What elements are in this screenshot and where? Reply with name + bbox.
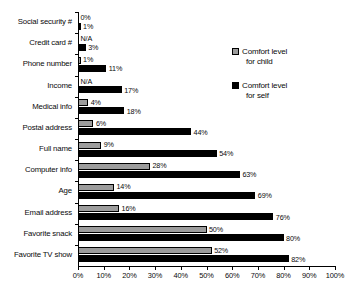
bar-self: [78, 23, 81, 30]
bar-self: [78, 192, 255, 199]
legend-swatch-child: [232, 48, 239, 55]
x-tick: [335, 266, 336, 270]
x-tick: [78, 266, 79, 270]
category-label: Age: [0, 186, 72, 196]
chart-row: Full name9%54%: [0, 139, 355, 160]
bar-value-label-self: 1%: [83, 23, 93, 31]
legend-label: Comfort levelfor child: [242, 47, 352, 67]
bar-value-label-child: 50%: [209, 226, 223, 234]
bar-value-label-child: 52%: [214, 247, 228, 255]
bar-self: [78, 171, 240, 178]
bar-value-label-child: 6%: [96, 120, 106, 128]
chart-row: Social security #0%1%: [0, 12, 355, 33]
x-tick: [155, 266, 156, 270]
legend-label: Comfort levelfor self: [242, 81, 352, 101]
bar-self: [78, 234, 284, 241]
bar-self: [78, 44, 86, 51]
bar-value-label-self: 76%: [276, 214, 290, 222]
bar-value-label-self: 82%: [291, 256, 305, 264]
bar-self: [78, 150, 217, 157]
x-tick: [104, 266, 105, 270]
bar-child: [78, 247, 212, 254]
bar-value-label-self: 11%: [109, 65, 122, 73]
chart-row: Age14%69%: [0, 181, 355, 202]
x-tick: [207, 266, 208, 270]
bar-value-label-child: 28%: [152, 162, 166, 170]
bar-value-label-child: N/A: [81, 35, 93, 43]
chart-row: Favorite TV show52%82%: [0, 245, 355, 266]
x-tick: [309, 266, 310, 270]
bar-child: [78, 205, 119, 212]
x-tick: [258, 266, 259, 270]
bar-self: [78, 86, 122, 93]
bar-child: [78, 226, 207, 233]
chart-row: Postal address6%44%: [0, 118, 355, 139]
category-label: Phone number: [0, 59, 72, 69]
bar-value-label-child: 16%: [122, 205, 136, 213]
category-label: Income: [0, 81, 72, 91]
chart-row: Favorite snack50%80%: [0, 224, 355, 245]
bar-value-label-self: 54%: [219, 150, 233, 158]
category-label: Favorite TV show: [0, 250, 72, 260]
bar-child: [78, 163, 150, 170]
legend-swatch-self: [232, 82, 239, 89]
x-tick-label: 100%: [320, 271, 350, 281]
bar-value-label-child: 14%: [116, 183, 130, 191]
bar-child: [78, 99, 88, 106]
category-label: Social security #: [0, 17, 72, 27]
chart-legend: Comfort levelfor childComfort levelfor s…: [232, 47, 352, 115]
bar-value-label-child: 9%: [104, 141, 114, 149]
bar-value-label-child: 0%: [81, 14, 91, 22]
legend-label-line2: for child: [246, 57, 352, 67]
bar-child: [78, 57, 81, 64]
bar-value-label-self: 63%: [242, 171, 256, 179]
legend-item: Comfort levelfor child: [232, 47, 352, 67]
legend-label-line2: for self: [246, 91, 352, 101]
x-tick: [232, 266, 233, 270]
bar-child: [78, 120, 93, 127]
bar-child: [78, 142, 101, 149]
legend-item: Comfort levelfor self: [232, 81, 352, 101]
bar-value-label-self: 17%: [124, 87, 138, 95]
bar-child: [78, 184, 114, 191]
category-label: Favorite snack: [0, 229, 72, 239]
bar-self: [78, 65, 106, 72]
bar-self: [78, 128, 191, 135]
bar-self: [78, 213, 273, 220]
bar-self: [78, 255, 289, 262]
bar-value-label-self: 18%: [127, 108, 141, 116]
chart-row: Email address16%76%: [0, 203, 355, 224]
category-label: Full name: [0, 144, 72, 154]
bar-value-label-self: 44%: [194, 129, 208, 137]
bar-value-label-child: 4%: [91, 99, 101, 107]
x-axis-tick-labels: 0%10%20%30%40%50%60%70%80%90%100%: [0, 271, 355, 285]
chart-container: 0%10%20%30%40%50%60%70%80%90%100% Social…: [0, 0, 355, 304]
category-label: Credit card #: [0, 38, 72, 48]
chart-row: Computer info28%63%: [0, 160, 355, 181]
bar-value-label-self: 80%: [286, 235, 300, 243]
x-tick: [284, 266, 285, 270]
category-label: Computer info: [0, 165, 72, 175]
x-tick: [181, 266, 182, 270]
bar-value-label-self: 69%: [258, 192, 272, 200]
bar-self: [78, 107, 124, 114]
bar-value-label-child: 1%: [83, 56, 93, 64]
category-label: Email address: [0, 208, 72, 218]
x-tick: [129, 266, 130, 270]
bar-value-label-child: N/A: [81, 78, 93, 86]
bar-value-label-self: 3%: [88, 44, 98, 52]
category-label: Postal address: [0, 123, 72, 133]
category-label: Medical info: [0, 102, 72, 112]
